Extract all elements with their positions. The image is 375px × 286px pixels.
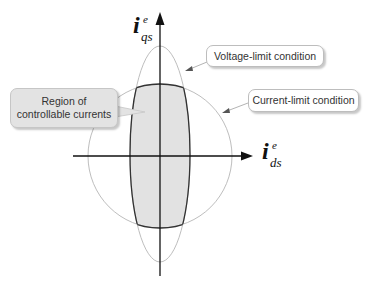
current-limit-label: Current-limit condition [252,94,354,107]
d-axis-superscript: e [272,139,277,151]
voltage-limit-pointer [190,62,207,69]
q-axis-symbol: i [133,12,140,39]
region-label-line1: Region of [42,95,87,108]
region-callout: Region of controllable currents [10,88,118,128]
d-axis-label: i e ds [262,138,292,172]
voltage-limit-callout: Voltage-limit condition [206,45,324,67]
q-axis-superscript: e [143,13,148,25]
voltage-limit-label: Voltage-limit condition [214,50,316,63]
region-label-line2: controllable currents [17,108,112,121]
current-limit-pointer [227,103,248,111]
current-limit-callout: Current-limit condition [248,89,359,112]
d-axis-arrowhead-icon [241,152,253,161]
q-axis-label: i e qs [133,12,163,46]
q-axis-subscript: qs [141,29,153,45]
d-axis-symbol: i [262,138,269,165]
current-limit-pointer-arrowhead-icon [222,108,230,113]
current-plane-diagram [0,0,375,286]
voltage-limit-pointer-arrowhead-icon [185,66,193,71]
d-axis-subscript: ds [270,155,282,171]
